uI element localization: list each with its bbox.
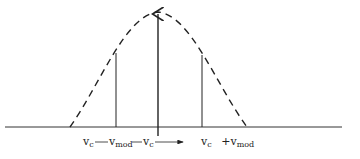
mod-label: vmod [109,136,133,149]
spectrum-diagram [0,0,360,159]
carrier-label: vc [143,136,154,149]
upper-sideband-label: vc +vmod [201,136,254,149]
lower-sideband-label: vc [83,136,94,149]
